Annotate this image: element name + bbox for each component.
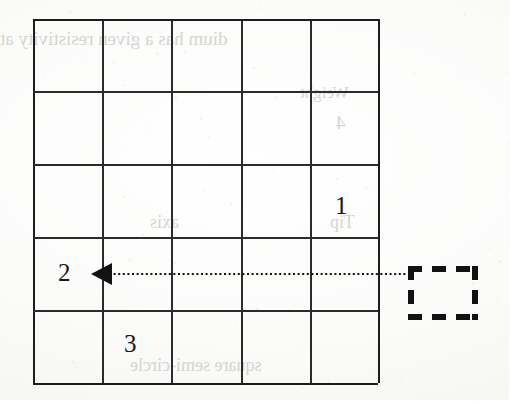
grid-horizontal-line xyxy=(33,164,378,166)
grid-horizontal-line xyxy=(33,19,378,21)
dashed-box-bottom-edge xyxy=(408,314,478,320)
grid-horizontal-line xyxy=(33,237,378,239)
dashed-box-top-edge xyxy=(408,266,478,272)
grid-vertical-line xyxy=(310,19,312,383)
grid-vertical-line xyxy=(102,19,104,383)
grid-vertical-line xyxy=(33,19,35,383)
grid-vertical-line xyxy=(241,19,243,383)
cell-label-3: 3 xyxy=(124,331,137,356)
grid-horizontal-line xyxy=(33,91,378,93)
dashed-target-box[interactable] xyxy=(408,266,478,320)
five-by-five-grid[interactable] xyxy=(33,19,378,383)
grid-vertical-line xyxy=(378,19,380,383)
cell-label-1: 1 xyxy=(335,193,348,218)
cell-label-2: 2 xyxy=(58,260,71,285)
grid-vertical-line xyxy=(171,19,173,383)
grid-horizontal-line xyxy=(33,383,378,385)
dashed-box-left-edge xyxy=(408,266,414,320)
dashed-box-right-edge xyxy=(472,266,478,320)
grid-horizontal-line xyxy=(33,310,378,312)
